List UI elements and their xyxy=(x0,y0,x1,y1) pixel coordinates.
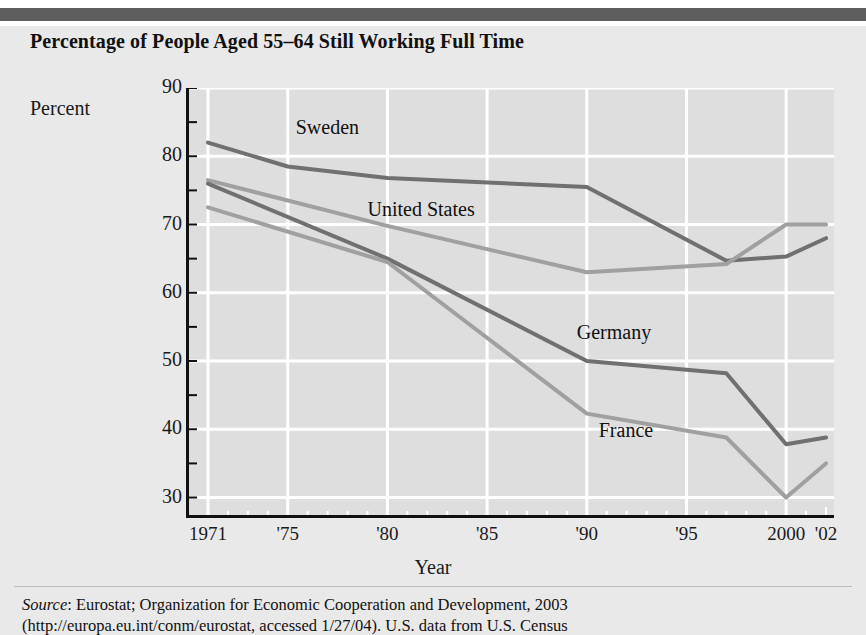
series-label-germany: Germany xyxy=(577,321,651,344)
y-tick-label: 30 xyxy=(138,485,182,508)
x-tick-label: '80 xyxy=(376,523,398,545)
y-tick-label: 70 xyxy=(138,212,182,235)
chart-title: Percentage of People Aged 55–64 Still Wo… xyxy=(30,30,730,53)
source-line-2: (http://europa.eu.int/conm/eurostat, acc… xyxy=(22,615,852,635)
source-text-1: : Eurostat; Organization for Economic Co… xyxy=(67,595,568,614)
series-line-sweden xyxy=(208,143,826,261)
x-tick-label: '85 xyxy=(476,523,498,545)
y-axis-tick-labels: 90807060504030 xyxy=(118,88,182,518)
y-tick-label: 80 xyxy=(138,143,182,166)
x-tick-label: 2000 xyxy=(767,523,805,545)
source-note: Source: Eurostat; Organization for Econo… xyxy=(22,594,852,635)
source-label: Source xyxy=(22,595,67,614)
x-axis-tick-labels: 1971'75'80'85'90'952000'02 xyxy=(186,523,846,549)
series-label-france: France xyxy=(599,419,653,442)
plot-svg xyxy=(186,88,834,518)
figure-page: Percentage of People Aged 55–64 Still Wo… xyxy=(0,0,866,635)
y-tick-label: 60 xyxy=(138,280,182,303)
x-axis-label: Year xyxy=(0,556,866,579)
plot-area xyxy=(186,88,834,518)
x-tick-label: '75 xyxy=(277,523,299,545)
series-label-sweden: Sweden xyxy=(296,116,359,139)
x-tick-label: '90 xyxy=(576,523,598,545)
y-tick-label: 50 xyxy=(138,348,182,371)
series-line-germany xyxy=(208,184,826,445)
source-divider xyxy=(14,586,852,587)
source-line-1: Source: Eurostat; Organization for Econo… xyxy=(22,594,852,615)
y-tick-label: 40 xyxy=(138,416,182,439)
x-tick-label: '95 xyxy=(675,523,697,545)
series-line-france xyxy=(208,207,826,497)
y-tick-label: 90 xyxy=(138,75,182,98)
series-label-united-states: United States xyxy=(367,198,474,221)
x-tick-label: 1971 xyxy=(189,523,227,545)
y-axis-label: Percent xyxy=(30,97,90,120)
series-line-united-states xyxy=(208,180,826,272)
x-tick-label: '02 xyxy=(815,523,837,545)
top-decoration-bar xyxy=(0,8,866,21)
